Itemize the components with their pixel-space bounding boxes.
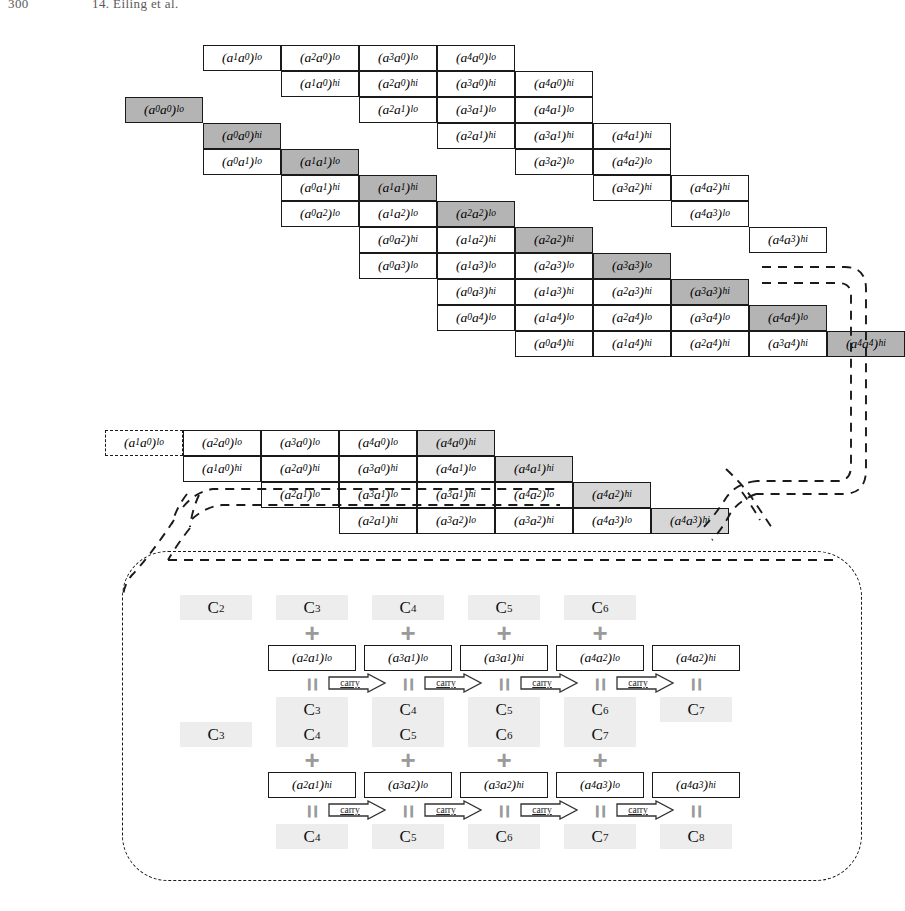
folded-cell-a1a0-lo: (a1a0)lo	[105, 430, 183, 456]
chain-1-term-a4a2-hi: (a4a2)hi	[652, 645, 740, 671]
partial-product-cell-a2a4-lo: (a2a4)lo	[593, 305, 671, 331]
chain-2-output-C7: C7	[564, 824, 636, 849]
carry-arrow-label: carry	[328, 676, 372, 690]
folded-cell-a4a2-lo: (a4a2)lo	[495, 482, 573, 508]
chain-1-plus-2: +	[395, 622, 421, 644]
chain-2-term-a2a1-hi: (a2a1)hi	[268, 772, 356, 798]
chain-1-output-C3: C3	[276, 697, 348, 722]
chain-2-equals-3: =	[491, 801, 517, 821]
chain-1-output-C7: C7	[660, 697, 732, 722]
partial-product-cell-a4a3-hi: (a4a3)hi	[749, 227, 827, 253]
folded-cell-a4a1-lo: (a4a1)lo	[417, 456, 495, 482]
partial-product-cell-a4a2-hi: (a4a2)hi	[671, 175, 749, 201]
partial-product-cell-a0a2-hi: (a0a2)hi	[359, 227, 437, 253]
chain-1-plus-4: +	[587, 622, 613, 644]
chain-2-term-a3a2-lo: (a3a2)lo	[364, 772, 452, 798]
chain-2-output-C4: C4	[276, 824, 348, 849]
folded-cell-a2a0-hi: (a2a0)hi	[261, 456, 339, 482]
partial-product-cell-a0a2-lo: (a0a2)lo	[281, 201, 359, 227]
partial-product-cell-a1a2-hi: (a1a2)hi	[437, 227, 515, 253]
chain-1-equals-1: =	[299, 674, 325, 694]
chain-1-input-C3: C3	[276, 595, 348, 620]
chain-2-plus-1: +	[299, 749, 325, 771]
carry-arrow-label: carry	[520, 803, 564, 817]
partial-product-cell-a4a1-hi: (a4a1)hi	[593, 123, 671, 149]
folded-cell-a3a0-hi: (a3a0)hi	[339, 456, 417, 482]
chain-2-plus-3: +	[491, 749, 517, 771]
partial-product-cell-a4a2-lo: (a4a2)lo	[593, 149, 671, 175]
partial-product-cell-a1a3-hi: (a1a3)hi	[515, 279, 593, 305]
folded-cell-a2a0-lo: (a2a0)lo	[183, 430, 261, 456]
folded-cell-a2a1-lo: (a2a1)lo	[261, 482, 339, 508]
chain-2-term-a4a3-hi: (a4a3)hi	[652, 772, 740, 798]
partial-product-cell-a0a0-hi: (a0a0)hi	[203, 123, 281, 149]
chain-2-input-C4: C4	[276, 722, 348, 747]
partial-product-cell-a2a1-hi: (a2a1)hi	[437, 123, 515, 149]
chain-2-equals-1: =	[299, 801, 325, 821]
folded-cell-a3a2-hi: (a3a2)hi	[495, 508, 573, 534]
partial-product-cell-a1a0-hi: (a1a0)hi	[281, 71, 359, 97]
partial-product-cell-a0a4-hi: (a0a4)hi	[515, 331, 593, 357]
chain-2-plus-2: +	[395, 749, 421, 771]
folded-cell-a4a0-lo: (a4a0)lo	[339, 430, 417, 456]
chain-1-plus-3: +	[491, 622, 517, 644]
chain-1-term-a3a1-hi: (a3a1)hi	[460, 645, 548, 671]
partial-product-cell-a1a2-lo: (a1a2)lo	[359, 201, 437, 227]
chain-2-equals-4: =	[587, 801, 613, 821]
partial-product-cell-a3a0-hi: (a3a0)hi	[437, 71, 515, 97]
partial-product-cell-a3a4-hi: (a3a4)hi	[749, 331, 827, 357]
partial-product-cell-a0a0-lo: (a0a0)lo	[125, 97, 203, 123]
carry-arrow-label: carry	[328, 803, 372, 817]
chain-2-carry-1: carry	[424, 800, 482, 820]
chain-1-input-C4: C4	[372, 595, 444, 620]
folded-cell-a4a1-hi: (a4a1)hi	[495, 456, 573, 482]
partial-product-cell-a3a3-hi: (a3a3)hi	[671, 279, 749, 305]
carry-arrow-label: carry	[616, 803, 660, 817]
partial-product-cell-a4a0-lo: (a4a0)lo	[437, 45, 515, 71]
carry-arrow-label: carry	[616, 676, 660, 690]
partial-product-cell-a0a1-hi: (a0a1)hi	[281, 175, 359, 201]
chain-2-output-C5: C5	[372, 824, 444, 849]
partial-product-cell-a4a1-lo: (a4a1)lo	[515, 97, 593, 123]
chain-2-plus-4: +	[587, 749, 613, 771]
folded-cell-a3a1-lo: (a3a1)lo	[339, 482, 417, 508]
partial-product-cell-a4a4-lo: (a4a4)lo	[749, 305, 827, 331]
chain-1-term-a2a1-lo: (a2a1)lo	[268, 645, 356, 671]
carry-arrow-label: carry	[424, 676, 468, 690]
chain-1-carry-3: carry	[616, 673, 674, 693]
chain-2-carry-0: carry	[328, 800, 386, 820]
partial-product-cell-a0a4-lo: (a0a4)lo	[437, 305, 515, 331]
carry-arrow-label: carry	[424, 803, 468, 817]
folded-cell-a3a1-hi: (a3a1)hi	[417, 482, 495, 508]
partial-product-cell-a2a2-lo: (a2a2)lo	[437, 201, 515, 227]
partial-product-cell-a2a0-lo: (a2a0)lo	[281, 45, 359, 71]
partial-product-cell-a3a4-lo: (a3a4)lo	[671, 305, 749, 331]
pipe-tail-cross-b	[742, 492, 760, 520]
partial-product-cell-a0a3-lo: (a0a3)lo	[359, 253, 437, 279]
chain-1-output-C5: C5	[468, 697, 540, 722]
chain-1-term-a4a2-lo: (a4a2)lo	[556, 645, 644, 671]
folded-cell-a3a2-lo: (a3a2)lo	[417, 508, 495, 534]
partial-product-cell-a1a0-lo: (a1a0)lo	[203, 45, 281, 71]
partial-product-cell-a4a3-lo: (a4a3)lo	[671, 201, 749, 227]
chain-2-equals-5: =	[683, 801, 709, 821]
folded-cell-a3a0-lo: (a3a0)lo	[261, 430, 339, 456]
chain-2-carry-2: carry	[520, 800, 578, 820]
partial-product-cell-a2a3-hi: (a2a3)hi	[593, 279, 671, 305]
running-head-chapter: 14. Eiling et al.	[92, 0, 179, 12]
chain-2-output-C6: C6	[468, 824, 540, 849]
folded-cell-a4a2-hi: (a4a2)hi	[573, 482, 651, 508]
folded-cell-a4a0-hi: (a4a0)hi	[417, 430, 495, 456]
folded-cell-a4a3-hi: (a4a3)hi	[651, 508, 729, 534]
partial-product-cell-a3a0-lo: (a3a0)lo	[359, 45, 437, 71]
partial-product-cell-a1a4-lo: (a1a4)lo	[515, 305, 593, 331]
partial-product-cell-a4a0-hi: (a4a0)hi	[515, 71, 593, 97]
partial-product-cell-a0a1-lo: (a0a1)lo	[203, 149, 281, 175]
folded-cell-a2a1-hi: (a2a1)hi	[339, 508, 417, 534]
chain-1-input-C5: C5	[468, 595, 540, 620]
chain-1-plus-1: +	[299, 622, 325, 644]
chain-2-carry-3: carry	[616, 800, 674, 820]
folded-cell-a1a0-hi: (a1a0)hi	[183, 456, 261, 482]
partial-product-cell-a1a4-hi: (a1a4)hi	[593, 331, 671, 357]
